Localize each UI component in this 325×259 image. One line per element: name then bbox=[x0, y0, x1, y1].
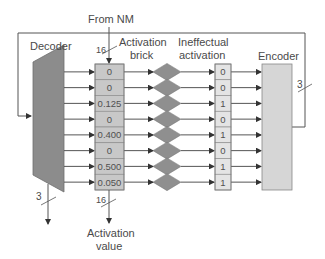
flag-cell-value: 0 bbox=[220, 66, 225, 77]
activation-cell-value: 0.400 bbox=[98, 129, 122, 140]
decoder: Decoder 3 bbox=[30, 40, 72, 224]
activation-brick-label-2: brick bbox=[130, 49, 154, 61]
encoder-label: Encoder bbox=[258, 50, 299, 62]
from-nm-label: From NM bbox=[88, 13, 134, 25]
flag-cell-value: 1 bbox=[220, 177, 225, 188]
flag-cell-value: 1 bbox=[220, 161, 225, 172]
flag-cell-value: 0 bbox=[220, 145, 225, 156]
activation-value-output: 16 Activation value bbox=[87, 190, 135, 252]
zero-detector-diamond bbox=[153, 126, 181, 143]
zero-detector-diamond bbox=[153, 63, 181, 80]
activation-brick-label-1: Activation bbox=[119, 36, 167, 48]
table-row: 0.5001 bbox=[64, 158, 261, 175]
table-row: 00 bbox=[64, 79, 261, 96]
zero-detector-diamond bbox=[153, 79, 181, 96]
ineffectual-label-2: activation bbox=[179, 49, 225, 61]
activation-cell-value: 0.125 bbox=[98, 98, 122, 109]
encoder-bus-width: 3 bbox=[297, 79, 303, 90]
zero-detector-diamond bbox=[153, 95, 181, 112]
encoder-block bbox=[262, 64, 292, 190]
activation-cell-value: 0 bbox=[107, 145, 112, 156]
flag-cell-value: 0 bbox=[220, 82, 225, 93]
activation-value-label-2: value bbox=[96, 240, 122, 252]
table-row: 0.4001 bbox=[64, 126, 261, 143]
table-row: 0.0501 bbox=[64, 174, 261, 191]
zero-detector-diamond bbox=[153, 142, 181, 159]
activation-rows: 00000.1251000.4001000.50010.0501 bbox=[64, 63, 261, 190]
activation-cell-value: 0.050 bbox=[98, 177, 122, 188]
activation-value-label-1: Activation bbox=[87, 227, 135, 239]
activation-cell-value: 0.500 bbox=[98, 161, 122, 172]
ineffectual-label-1: Ineffectual bbox=[178, 36, 229, 48]
zero-detector-diamond bbox=[153, 111, 181, 128]
activation-cell-value: 0 bbox=[107, 82, 112, 93]
table-row: 0.1251 bbox=[64, 95, 261, 112]
flag-cell-value: 1 bbox=[220, 98, 225, 109]
table-row: 00 bbox=[64, 142, 261, 159]
activation-cell-value: 0 bbox=[107, 114, 112, 125]
flag-cell-value: 0 bbox=[220, 114, 225, 125]
table-row: 00 bbox=[64, 63, 261, 80]
decoder-label: Decoder bbox=[30, 40, 72, 52]
zero-detector-diamond bbox=[153, 174, 181, 191]
activation-out-bus-width: 16 bbox=[96, 195, 106, 205]
table-row: 00 bbox=[64, 111, 261, 128]
activation-cell-value: 0 bbox=[107, 66, 112, 77]
zero-detector-diamond bbox=[153, 158, 181, 175]
from-nm-bus-width: 16 bbox=[96, 45, 106, 55]
flag-cell-value: 1 bbox=[220, 129, 225, 140]
decoder-bus-width: 3 bbox=[36, 191, 42, 202]
from-nm-input: From NM 16 Activation brick bbox=[88, 13, 167, 63]
decoder-block bbox=[33, 45, 64, 192]
diagram-canvas: 3 Decoder 3 From NM 16 Activation brick … bbox=[0, 0, 325, 259]
